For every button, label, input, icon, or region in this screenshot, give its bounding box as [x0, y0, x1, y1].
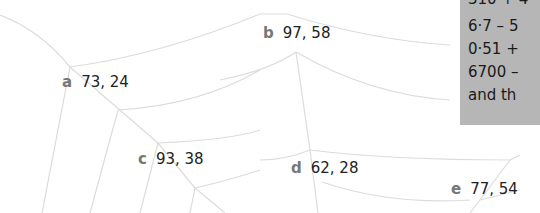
- label-letter: c: [138, 150, 147, 168]
- panel-line: 310 + 4: [468, 0, 528, 7]
- web-label-d: d62, 28: [291, 161, 358, 176]
- panel-line: 6700 –: [468, 65, 518, 80]
- panel-line: 6·7 – 5: [468, 19, 518, 34]
- web-label-a: a73, 24: [62, 75, 129, 90]
- label-value: 97, 58: [283, 24, 331, 42]
- label-value: 62, 28: [311, 159, 359, 177]
- label-letter: d: [291, 159, 302, 177]
- label-letter: b: [263, 24, 274, 42]
- label-letter: e: [451, 180, 461, 198]
- web-label-c: c93, 38: [138, 152, 204, 167]
- panel-line: and th: [468, 88, 516, 103]
- panel-line: 0·51 +: [468, 42, 519, 57]
- web-label-e: e77, 54: [451, 182, 518, 197]
- label-value: 77, 54: [470, 180, 518, 198]
- web-label-b: b97, 58: [263, 26, 330, 41]
- label-value: 93, 38: [156, 150, 204, 168]
- label-value: 73, 24: [81, 73, 129, 91]
- label-letter: a: [62, 73, 72, 91]
- calculation-panel: 310 + 4 6·7 – 5 0·51 + 6700 – and th: [460, 0, 540, 125]
